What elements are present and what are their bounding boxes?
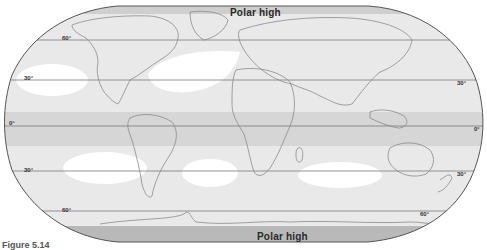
figure-caption: Figure 5.14 [2, 240, 50, 250]
world-map-svg [0, 0, 487, 250]
lat-label-eq-left: 0° [9, 120, 15, 126]
lat-label-30n-left: 30° [24, 75, 33, 81]
high-cell-s-pacific [63, 152, 147, 184]
high-cell-indian [298, 162, 382, 188]
lat-label-60s-right: 60° [420, 211, 429, 217]
high-cell-s-atlantic [182, 159, 238, 187]
lat-label-eq-right: 0° [474, 126, 480, 132]
zone-polar-high-south [0, 226, 487, 246]
lat-label-60n: 60° [62, 35, 71, 41]
pressure-belt-map: Polar high Polar high 60° 30° 30° 0° 0° … [0, 0, 487, 250]
polar-high-south-label: Polar high [257, 231, 308, 242]
lat-label-30s-right: 30° [457, 171, 466, 177]
zone-equatorial-low [0, 112, 487, 146]
lat-label-60s-left: 60° [62, 207, 71, 213]
polar-high-north-label: Polar high [230, 7, 281, 18]
lat-label-30s-left: 30° [24, 167, 33, 173]
lat-label-30n-right: 30° [457, 80, 466, 86]
